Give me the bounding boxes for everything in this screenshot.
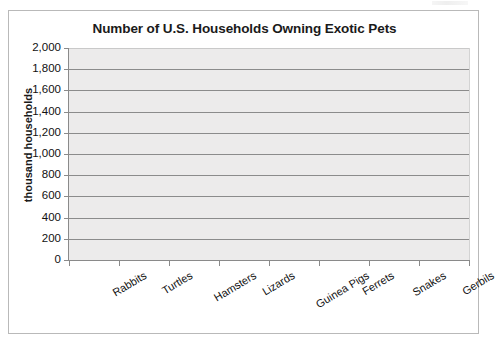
x-tick-label: Gerbils bbox=[460, 269, 496, 297]
y-tick-label: 800 bbox=[1, 169, 61, 181]
x-tick-mark bbox=[419, 261, 420, 266]
y-tick-mark bbox=[64, 48, 69, 49]
y-tick-label: 1,200 bbox=[1, 127, 61, 139]
x-tick-mark bbox=[169, 261, 170, 266]
x-tick-mark bbox=[319, 261, 320, 266]
x-tick-mark bbox=[119, 261, 120, 266]
y-tick-label: 1,800 bbox=[1, 63, 61, 75]
y-tick-mark bbox=[64, 69, 69, 70]
y-tick-label: 1,400 bbox=[1, 106, 61, 118]
gridline bbox=[69, 112, 469, 113]
x-tick-label: Snakes bbox=[410, 269, 448, 298]
y-tick-label: 200 bbox=[1, 233, 61, 245]
x-tick-mark bbox=[469, 261, 470, 266]
y-tick-label: 400 bbox=[1, 212, 61, 224]
y-tick-label: 0 bbox=[1, 254, 61, 266]
y-tick-mark bbox=[64, 90, 69, 91]
x-tick-mark bbox=[369, 261, 370, 266]
y-tick-mark bbox=[64, 112, 69, 113]
gridline bbox=[69, 239, 469, 240]
x-tick-label: Turtles bbox=[160, 269, 195, 296]
y-tick-mark bbox=[64, 196, 69, 197]
chart-title: Number of U.S. Households Owning Exotic … bbox=[9, 21, 480, 36]
gridline bbox=[69, 69, 469, 70]
y-tick-mark bbox=[64, 218, 69, 219]
x-tick-label: Hamsters bbox=[212, 269, 259, 304]
gridline bbox=[69, 196, 469, 197]
x-tick-mark bbox=[69, 261, 70, 266]
y-tick-label: 1,000 bbox=[1, 148, 61, 160]
y-tick-mark bbox=[64, 133, 69, 134]
x-tick-mark bbox=[219, 261, 220, 266]
y-tick-label: 600 bbox=[1, 190, 61, 202]
x-tick-label: Lizards bbox=[260, 269, 297, 298]
y-tick-mark bbox=[64, 239, 69, 240]
gridline bbox=[69, 48, 469, 49]
chart-frame: Number of U.S. Households Owning Exotic … bbox=[8, 10, 479, 334]
gridline bbox=[69, 218, 469, 219]
x-tick-mark bbox=[269, 261, 270, 266]
gridline bbox=[69, 154, 469, 155]
plot-right-edge bbox=[469, 48, 470, 260]
gridline bbox=[69, 175, 469, 176]
y-tick-label: 1,600 bbox=[1, 84, 61, 96]
y-tick-label: 2,000 bbox=[1, 42, 61, 54]
y-tick-mark bbox=[64, 175, 69, 176]
plot-wrapper: 2,0001,8001,6001,4001,2001,0008006004002… bbox=[69, 48, 469, 270]
y-tick-mark bbox=[64, 154, 69, 155]
gridline bbox=[69, 90, 469, 91]
scan-artifact bbox=[432, 1, 468, 5]
x-tick-label: Rabbits bbox=[110, 269, 148, 298]
gridline bbox=[69, 133, 469, 134]
